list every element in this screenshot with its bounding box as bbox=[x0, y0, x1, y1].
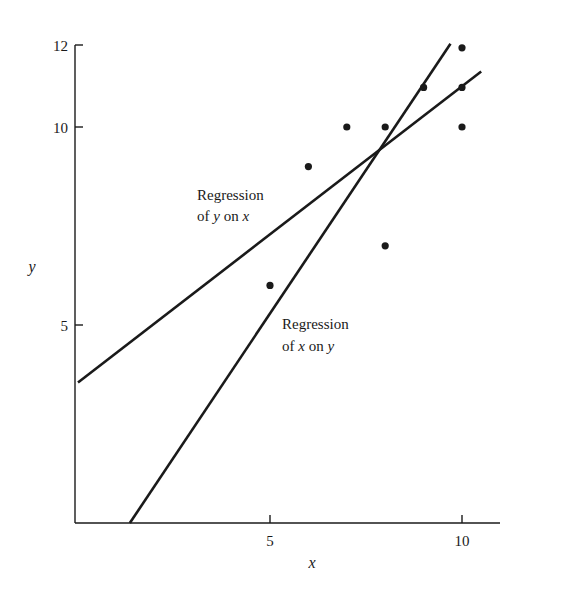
axes bbox=[75, 45, 500, 523]
annotation-y-on-x: Regression of y on x bbox=[197, 187, 264, 224]
data-points bbox=[266, 44, 465, 289]
annotation-x-on-y-line2: of x on y bbox=[282, 338, 334, 354]
data-point bbox=[266, 282, 273, 289]
x-tick-label-5: 5 bbox=[266, 533, 274, 549]
regression-line-x-on-y bbox=[130, 44, 451, 523]
data-point bbox=[382, 242, 389, 249]
data-point bbox=[458, 44, 465, 51]
regression-line-y-on-x bbox=[78, 72, 481, 383]
x-tick-label-10: 10 bbox=[455, 533, 470, 549]
x-axis-label: x bbox=[307, 554, 315, 571]
annotation-y-on-x-line1: Regression bbox=[197, 187, 264, 203]
regression-chart: 12 10 5 5 10 y x Regression of y on x Re… bbox=[0, 0, 565, 597]
annotation-x-on-y: Regression of x on y bbox=[282, 316, 349, 354]
data-point bbox=[458, 123, 465, 130]
annotation-y-on-x-line2: of y on x bbox=[197, 208, 249, 224]
regression-lines bbox=[78, 44, 481, 523]
y-axis-label: y bbox=[26, 258, 36, 276]
data-point bbox=[382, 123, 389, 130]
y-tick-label-5: 5 bbox=[61, 318, 69, 334]
y-tick-label-10: 10 bbox=[53, 120, 68, 136]
data-point bbox=[458, 84, 465, 91]
y-tick-label-12: 12 bbox=[53, 38, 68, 54]
data-point bbox=[420, 84, 427, 91]
data-point bbox=[343, 123, 350, 130]
annotation-x-on-y-line1: Regression bbox=[282, 316, 349, 332]
data-point bbox=[305, 163, 312, 170]
